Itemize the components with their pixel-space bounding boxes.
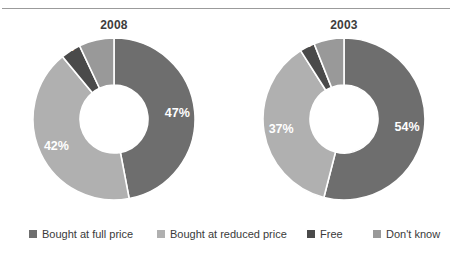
donut-svg-2008: 47%42%4%7% xyxy=(32,37,196,201)
donut-canvas-2003: 54%37%3%6% xyxy=(262,37,426,201)
legend-swatch-icon xyxy=(373,230,381,238)
legend-item-dont-know[interactable]: Don't know xyxy=(373,226,440,242)
legend-label: Free xyxy=(320,226,343,242)
donut-canvas-2008: 47%42%4%7% xyxy=(32,37,196,201)
legend-item-bought-at-reduced-price[interactable]: Bought at reduced price xyxy=(157,226,287,242)
slice-value-label: 4% xyxy=(57,41,74,53)
slice-value-label: 47% xyxy=(165,106,190,120)
figure-canvas: 2008 47%42%4%7% 2003 54%37%3%6% Bought a… xyxy=(0,0,452,256)
chart-title-2003: 2003 xyxy=(244,18,444,32)
slice-value-label: 54% xyxy=(395,120,420,134)
donut-chart-2003: 2003 54%37%3%6% xyxy=(244,18,444,218)
legend-swatch-icon xyxy=(157,230,165,238)
top-divider-rule xyxy=(2,8,450,9)
legend-item-free[interactable]: Free xyxy=(307,226,343,242)
legend-swatch-icon xyxy=(307,230,315,238)
legend-item-bought-at-full-price[interactable]: Bought at full price xyxy=(29,226,133,242)
chart-legend: Bought at full price Bought at reduced p… xyxy=(0,226,452,246)
chart-title-2008: 2008 xyxy=(14,18,214,32)
slice-value-label: 6% xyxy=(318,37,335,41)
slice-value-label: 37% xyxy=(269,122,294,136)
slice-value-label: 3% xyxy=(295,37,312,49)
legend-label: Don't know xyxy=(386,226,440,242)
legend-label: Bought at reduced price xyxy=(170,226,287,242)
slice-value-label: 7% xyxy=(85,37,102,41)
donut-chart-2008: 2008 47%42%4%7% xyxy=(14,18,214,218)
donut-svg-2003: 54%37%3%6% xyxy=(262,37,426,201)
legend-label: Bought at full price xyxy=(42,226,133,242)
legend-swatch-icon xyxy=(29,230,37,238)
slice-value-label: 42% xyxy=(44,139,69,153)
